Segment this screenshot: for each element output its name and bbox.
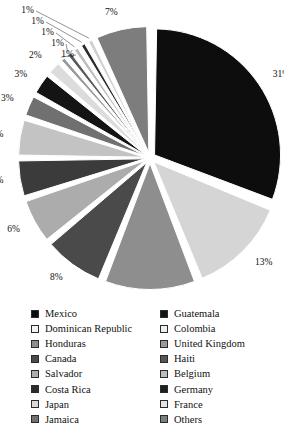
pie-percent-label: 1% xyxy=(61,49,74,59)
legend-item[interactable]: Costa Rica xyxy=(31,381,132,396)
legend-item-label: Japan xyxy=(45,399,69,410)
legend-item-label: United Kingdom xyxy=(174,338,245,349)
pie-slice-group xyxy=(19,27,281,290)
legend-swatch xyxy=(31,370,39,378)
chart-legend: MexicoDominican RepublicHondurasCanadaSa… xyxy=(0,300,284,438)
legend-swatch xyxy=(31,325,39,333)
legend-swatch xyxy=(31,340,39,348)
pie-percent-label: 5% xyxy=(0,175,3,185)
legend-swatch xyxy=(160,400,168,408)
legend-swatch xyxy=(160,355,168,363)
pie-percent-label: 1% xyxy=(41,27,54,37)
legend-item-label: Mexico xyxy=(45,308,77,319)
pie-percent-label: 5% xyxy=(0,129,3,139)
legend-item[interactable]: Colombia xyxy=(160,321,245,336)
legend-swatch xyxy=(31,310,39,318)
legend-item[interactable]: Canada xyxy=(31,351,132,366)
legend-item-label: Jamaica xyxy=(45,414,79,425)
legend-swatch xyxy=(160,325,168,333)
pie-percent-label: 3% xyxy=(1,93,14,103)
pie-percent-label: 2% xyxy=(29,50,42,60)
legend-column-right: GuatemalaColombiaUnited KingdomHaitiBelg… xyxy=(160,306,245,427)
legend-item[interactable]: Honduras xyxy=(31,336,132,351)
pie-percent-label: 8% xyxy=(50,272,63,282)
pie-percent-label: 6% xyxy=(7,224,20,234)
legend-item[interactable]: Jamaica xyxy=(31,412,132,427)
pie-chart-svg: 31%13%12%8%6%5%5%3%3%2%1%1%1%1%1%7% xyxy=(0,0,284,300)
legend-item[interactable]: Haiti xyxy=(160,351,245,366)
pie-percent-label: 1% xyxy=(51,38,64,48)
legend-item[interactable]: France xyxy=(160,397,245,412)
pie-percent-label: 31% xyxy=(273,69,284,79)
pie-percent-label: 1% xyxy=(31,16,44,26)
legend-item-label: Colombia xyxy=(174,323,215,334)
legend-item[interactable]: Belgium xyxy=(160,366,245,381)
legend-swatch xyxy=(160,370,168,378)
legend-item-label: Belgium xyxy=(174,368,210,379)
legend-item-label: Others xyxy=(174,414,202,425)
legend-item[interactable]: Salvador xyxy=(31,366,132,381)
legend-item[interactable]: Mexico xyxy=(31,306,132,321)
legend-item-label: Canada xyxy=(45,353,77,364)
legend-swatch xyxy=(31,415,39,423)
legend-swatch xyxy=(160,385,168,393)
legend-item[interactable]: Guatemala xyxy=(160,306,245,321)
pie-chart-figure: 31%13%12%8%6%5%5%3%3%2%1%1%1%1%1%7% Mexi… xyxy=(0,0,284,438)
legend-item-label: Haiti xyxy=(174,353,195,364)
pie-percent-label: 3% xyxy=(15,69,28,79)
legend-item-label: Honduras xyxy=(45,338,86,349)
pie-percent-label: 1% xyxy=(21,5,34,15)
legend-item-label: Dominican Republic xyxy=(45,323,132,334)
legend-item[interactable]: Dominican Republic xyxy=(31,321,132,336)
pie-percent-label: 13% xyxy=(255,257,273,267)
legend-item[interactable]: Germany xyxy=(160,381,245,396)
legend-column-left: MexicoDominican RepublicHondurasCanadaSa… xyxy=(31,306,132,427)
legend-swatch xyxy=(160,415,168,423)
legend-item-label: France xyxy=(174,399,203,410)
legend-swatch xyxy=(31,400,39,408)
legend-swatch xyxy=(31,355,39,363)
pie-percent-label: 7% xyxy=(105,7,118,17)
legend-item-label: Germany xyxy=(174,384,213,395)
legend-item-label: Costa Rica xyxy=(45,384,91,395)
legend-swatch xyxy=(160,310,168,318)
legend-swatch xyxy=(160,340,168,348)
legend-swatch xyxy=(31,385,39,393)
pie-chart-plot-area: 31%13%12%8%6%5%5%3%3%2%1%1%1%1%1%7% xyxy=(0,0,284,300)
legend-item[interactable]: Japan xyxy=(31,397,132,412)
legend-item-label: Guatemala xyxy=(174,308,219,319)
legend-item-label: Salvador xyxy=(45,368,82,379)
legend-item[interactable]: United Kingdom xyxy=(160,336,245,351)
legend-item[interactable]: Others xyxy=(160,412,245,427)
